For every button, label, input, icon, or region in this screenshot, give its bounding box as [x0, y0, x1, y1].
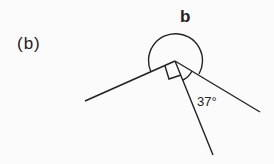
angle-label-37: 37°	[197, 94, 217, 109]
reflex-angle-arc-b	[149, 34, 203, 74]
angle-diagram	[0, 0, 274, 164]
ray-left	[85, 61, 175, 101]
ray-right	[175, 61, 260, 112]
angle-arc-37	[183, 71, 192, 80]
right-angle-marker	[165, 66, 181, 79]
figure: (b) b 37°	[0, 0, 274, 164]
part-label: (b)	[17, 34, 41, 54]
angle-label-b: b	[180, 7, 190, 27]
